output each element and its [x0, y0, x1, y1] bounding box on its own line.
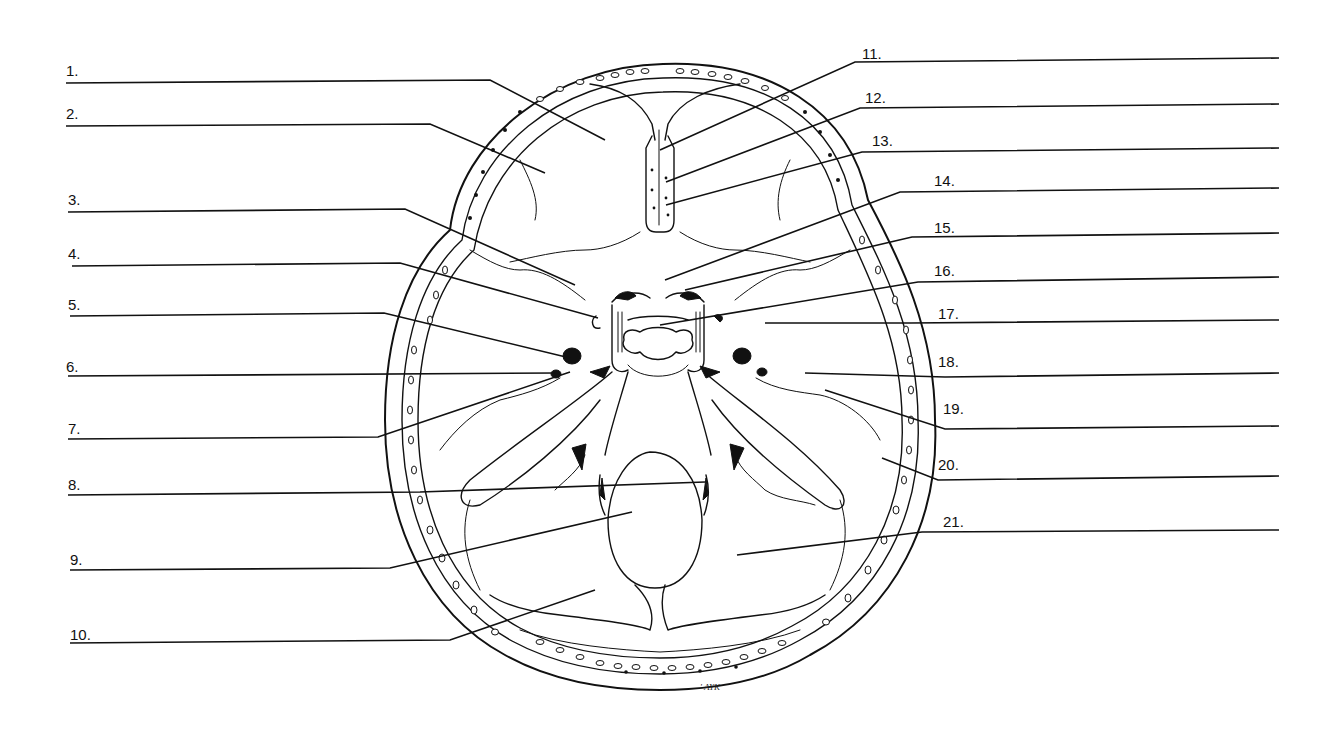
label-number-14: 14.	[934, 172, 955, 189]
label-number-4: 4.	[68, 245, 81, 262]
label-number-11: 11.	[862, 45, 882, 62]
artist-signature: ' AYK	[700, 682, 721, 692]
leader-line-17	[765, 320, 1279, 323]
label-number-12: 12.	[865, 89, 886, 106]
label-number-20: 20.	[938, 456, 959, 473]
anterior-fossa	[470, 160, 850, 300]
label-number-19: 19.	[943, 400, 964, 417]
label-number-13: 13.	[872, 132, 893, 149]
leader-line-11	[660, 58, 1279, 150]
skull-illustration: 1.2.3.4.5.6.7.8.9.10.11.12.13.14.15.16.1…	[0, 0, 1340, 733]
leader-line-7	[68, 372, 570, 439]
leader-line-6	[68, 373, 555, 376]
label-number-21: 21.	[943, 513, 964, 530]
sella-turcica	[612, 292, 704, 377]
leader-line-3	[68, 209, 575, 285]
leader-line-18	[805, 373, 1279, 377]
label-number-5: 5.	[68, 296, 81, 313]
foramina	[551, 315, 767, 470]
cranial-wall	[385, 64, 935, 690]
leader-line-4	[72, 263, 598, 318]
label-number-16: 16.	[934, 262, 955, 279]
label-number-1: 1.	[66, 62, 79, 79]
leader-line-8	[68, 482, 705, 495]
label-number-8: 8.	[68, 476, 81, 493]
leader-line-13	[666, 148, 1279, 205]
label-number-9: 9.	[70, 551, 83, 568]
leader-line-9	[70, 512, 632, 570]
leader-line-16	[660, 277, 1279, 325]
label-number-18: 18.	[938, 353, 959, 370]
foramen-magnum	[599, 372, 711, 588]
label-number-7: 7.	[68, 420, 81, 437]
leader-line-19	[825, 390, 1279, 429]
label-number-2: 2.	[66, 105, 79, 122]
leader-line-5	[70, 313, 570, 358]
label-number-10: 10.	[70, 626, 91, 643]
label-number-3: 3.	[68, 191, 81, 208]
leader-line-12	[666, 104, 1279, 182]
label-number-17: 17.	[938, 305, 959, 322]
skull-base-diagram: 1.2.3.4.5.6.7.8.9.10.11.12.13.14.15.16.1…	[0, 0, 1340, 733]
leader-line-21	[737, 530, 1279, 555]
crista-galli	[590, 84, 740, 232]
label-number-6: 6.	[66, 358, 79, 375]
leader-line-10	[70, 590, 595, 643]
label-number-15: 15.	[934, 219, 955, 236]
